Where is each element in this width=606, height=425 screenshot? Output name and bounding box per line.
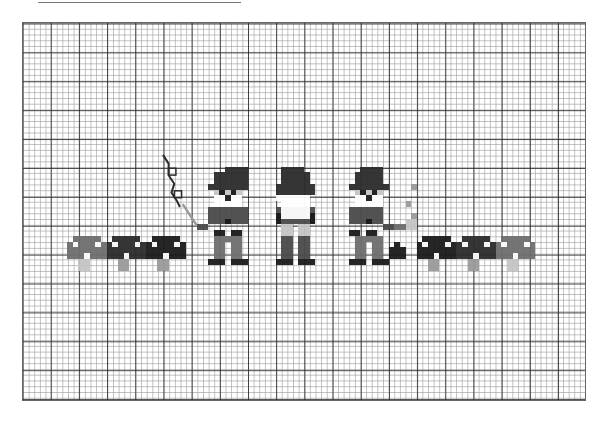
stitch-cell — [214, 242, 225, 259]
stitch-cell — [174, 242, 180, 248]
stitch-cell — [197, 224, 208, 230]
stitch-cell — [372, 259, 389, 265]
stitch-cell — [281, 207, 309, 219]
stitch-cell — [298, 224, 309, 236]
stitch-cell — [95, 242, 101, 248]
pattern-motifs — [22, 22, 586, 401]
stitch-cell — [276, 213, 282, 225]
stitch-cell — [310, 213, 316, 225]
stitch-cell — [355, 242, 366, 259]
stitch-cell — [349, 259, 366, 265]
stitch-cell — [112, 242, 118, 248]
stitch-cell — [372, 242, 383, 259]
stitch-cell — [208, 259, 225, 265]
balloon-string-icon — [163, 155, 180, 207]
stitch-cell — [152, 242, 158, 248]
wand-icon — [183, 204, 197, 225]
stitch-cell — [281, 224, 292, 236]
stitch-cell — [484, 242, 490, 248]
stitch-cell — [394, 224, 405, 230]
stitch-cell — [411, 184, 417, 190]
stitch-cell — [383, 224, 394, 230]
stitch-cell — [445, 242, 451, 248]
stitch-cell — [406, 201, 412, 207]
stitch-cell — [366, 219, 372, 225]
stitch-cell — [422, 242, 428, 248]
stitch-cell — [428, 259, 439, 271]
stitch-cell — [406, 219, 417, 231]
stitch-cell — [389, 247, 406, 259]
stitch-cell — [214, 172, 248, 184]
stitch-cell — [298, 236, 309, 259]
stitch-cell — [231, 259, 248, 265]
stitch-cell — [231, 242, 242, 259]
stitch-cell — [78, 259, 89, 271]
stitch-cell — [276, 259, 293, 265]
string-loop-icon — [169, 168, 176, 175]
stitch-cell — [298, 259, 315, 265]
stitch-cell — [281, 195, 309, 207]
stitch-cell — [225, 219, 231, 225]
stitch-cell — [118, 259, 129, 271]
stitch-cell — [281, 236, 292, 259]
stitch-cell — [157, 259, 168, 271]
string-loop-icon — [174, 191, 181, 198]
stitch-cell — [501, 242, 507, 248]
stitch-cell — [507, 259, 518, 271]
stitch-cell — [462, 242, 468, 248]
stitch-cell — [281, 172, 309, 184]
stitch-cell — [276, 184, 315, 196]
stitch-cell — [242, 207, 248, 224]
stitch-cell — [135, 242, 141, 248]
stitch-cell — [355, 172, 383, 184]
stitch-cell — [468, 259, 479, 271]
title-underline — [38, 2, 241, 3]
stitch-cell — [73, 242, 79, 248]
stitch-cell — [524, 242, 530, 248]
